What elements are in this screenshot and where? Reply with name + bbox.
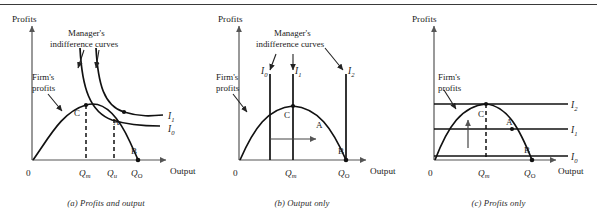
three-panel-figure: Profits Output 0 Manager's indifference …	[0, 0, 597, 220]
annotation-arrow-i2	[325, 48, 343, 70]
point-c-marker	[291, 104, 295, 108]
point-label-b: B	[131, 146, 137, 156]
point-label-c: C	[284, 110, 290, 120]
origin-label: 0	[428, 168, 433, 178]
x-axis-label: Output	[558, 166, 584, 176]
curve-label-i0: I0	[260, 66, 268, 78]
panel-a-caption: (a) Profits and output	[0, 198, 206, 208]
annotation-arrow-firms-profits	[233, 94, 247, 112]
annotation-arrow-i0	[270, 54, 276, 70]
origin-label: 0	[26, 168, 31, 178]
x-axis-label: Output	[170, 166, 196, 176]
y-axis-label: Profits	[412, 14, 437, 24]
firm-note-line2: profits	[32, 83, 56, 93]
firm-note-line1: Firm's	[438, 72, 461, 82]
curve-label-i1: I1	[570, 125, 577, 137]
panel-c-caption: (c) Profits only	[396, 198, 597, 208]
xtick-label-qm: Qm	[285, 168, 297, 179]
manager-note-line2: indifference curves	[50, 39, 119, 49]
curve-label-i2: I2	[347, 66, 355, 78]
manager-note-line1: Manager's	[274, 28, 311, 38]
firm-note-line2: profits	[438, 83, 462, 93]
panel-output-only: Profits Output 0 Manager's indifference …	[198, 8, 398, 220]
y-axis-label: Profits	[218, 14, 243, 24]
point-b-marker	[344, 158, 349, 163]
panel-profits-only: Profits Output 0 Firm's profits C A B I2…	[396, 8, 597, 220]
indifference-curve-i0	[80, 48, 160, 126]
indifference-curve-i1	[96, 48, 163, 116]
curve-label-i0: I0	[167, 124, 175, 136]
point-label-b: B	[338, 146, 344, 156]
manager-note-line1: Manager's	[68, 28, 105, 38]
point-a-marker	[122, 110, 126, 114]
panel-a-plot: Profits Output 0 Manager's indifference …	[0, 8, 200, 198]
curve-label-i2: I2	[570, 100, 578, 112]
point-c-marker	[484, 102, 488, 106]
annotation-arrow-firms-profits	[48, 94, 62, 111]
point-label-c: C	[478, 109, 484, 119]
firm-note-line2: profits	[216, 83, 240, 93]
point-a-marker	[510, 127, 514, 131]
point-label-a: A	[316, 120, 323, 130]
point-label-a: A	[506, 117, 513, 127]
panel-profits-and-output: Profits Output 0 Manager's indifference …	[0, 8, 200, 220]
xtick-label-qm: Qm	[79, 168, 91, 179]
panel-c-plot: Profits Output 0 Firm's profits C A B I2…	[396, 8, 597, 198]
point-b-marker	[136, 158, 141, 163]
point-label-b: B	[524, 145, 530, 155]
origin-label: 0	[233, 168, 238, 178]
curve-label-i1: I1	[294, 66, 301, 78]
xtick-label-qm: Qm	[478, 168, 490, 179]
y-axis-label: Profits	[12, 14, 37, 24]
point-label-a: A	[113, 117, 120, 127]
manager-note-line2: indifference curves	[256, 39, 325, 49]
xtick-label-qo: QO	[524, 168, 536, 179]
xtick-label-qo: QO	[131, 168, 143, 179]
panel-b-caption: (b) Output only	[198, 198, 402, 208]
firm-note-line1: Firm's	[32, 72, 55, 82]
point-b-marker	[530, 158, 535, 163]
curve-label-i0: I0	[570, 152, 578, 164]
curve-label-i1: I1	[167, 111, 174, 123]
xtick-label-qo: QO	[338, 168, 350, 179]
xtick-label-qu: Qu	[107, 168, 118, 179]
point-label-c: C	[74, 108, 80, 118]
x-axis-label: Output	[370, 166, 396, 176]
point-c-marker	[84, 103, 88, 107]
firm-note-line1: Firm's	[216, 72, 239, 82]
panel-b-plot: Profits Output 0 Manager's indifference …	[198, 8, 398, 198]
